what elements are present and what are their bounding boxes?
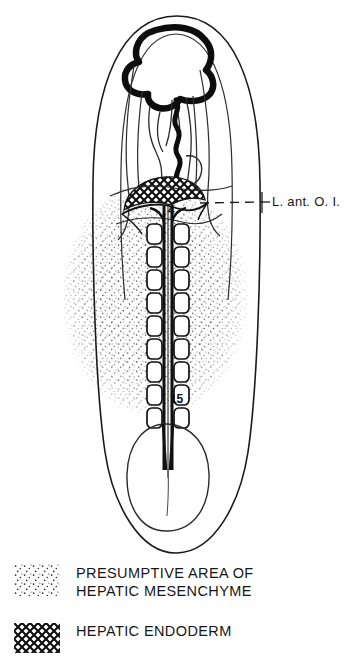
brain-vesicle bbox=[125, 27, 213, 108]
somite-number-15: 15 bbox=[170, 392, 183, 406]
stipple-swatch bbox=[14, 564, 60, 596]
callout-label: L. ant. O. I. bbox=[272, 194, 340, 209]
legend: PRESUMPTIVE AREA OF HEPATIC MESENCHYME H… bbox=[0, 556, 355, 669]
legend-label-hepatic-endoderm: HEPATIC ENDODERM bbox=[76, 622, 232, 641]
somite-number-4: 4 bbox=[168, 203, 174, 217]
foregut-pocket bbox=[149, 98, 191, 186]
legend-item-hepatic-mesenchyme: PRESUMPTIVE AREA OF HEPATIC MESENCHYME bbox=[14, 564, 254, 600]
legend-label-hepatic-mesenchyme: PRESUMPTIVE AREA OF HEPATIC MESENCHYME bbox=[76, 564, 254, 600]
figure-root: 4 15 L. ant. O. I. PRESUMPTIVE AREA OF H… bbox=[0, 0, 355, 669]
legend-item-hepatic-endoderm: HEPATIC ENDODERM bbox=[14, 622, 232, 653]
crosshatch-swatch bbox=[14, 623, 60, 653]
